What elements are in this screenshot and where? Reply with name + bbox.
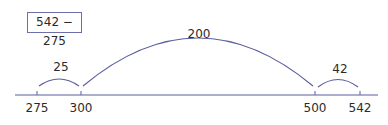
jump-arc-25: [39, 79, 79, 86]
jump-arc-200: [83, 38, 313, 86]
tick-label-542: 542: [349, 101, 372, 115]
jump-arc-42: [318, 80, 358, 88]
tick-label-500: 500: [304, 101, 327, 115]
jump-label-200: 200: [188, 27, 211, 41]
number-line-diagram: 275 300 500 542 25 200 42: [0, 0, 388, 125]
tick-label-300: 300: [70, 101, 93, 115]
jump-label-42: 42: [332, 62, 347, 76]
tick-label-275: 275: [26, 101, 49, 115]
jump-label-25: 25: [53, 60, 68, 74]
